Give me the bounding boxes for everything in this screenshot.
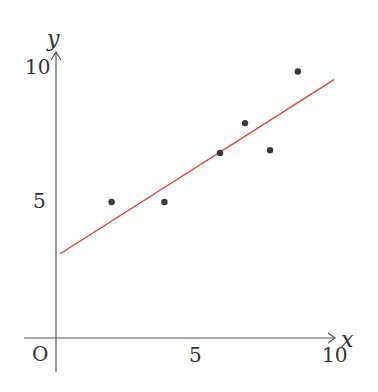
axis-labels: y x O 5 10 5 10 xyxy=(25,26,354,367)
data-point xyxy=(242,120,248,126)
data-point xyxy=(295,68,301,74)
data-point xyxy=(267,147,273,153)
data-series xyxy=(60,68,334,254)
origin-label: O xyxy=(32,342,48,366)
y-tick-label-10: 10 xyxy=(25,55,50,79)
x-tick-label-10: 10 xyxy=(322,343,347,367)
scatter-plot: y x O 5 10 5 10 xyxy=(0,0,378,392)
data-point xyxy=(108,199,114,205)
y-axis-label: y xyxy=(46,26,60,51)
x-tick-label-5: 5 xyxy=(189,343,202,367)
regression-line xyxy=(60,80,334,254)
data-point xyxy=(161,199,167,205)
axes xyxy=(24,52,335,372)
y-tick-label-5: 5 xyxy=(33,189,46,213)
data-point xyxy=(217,150,223,156)
